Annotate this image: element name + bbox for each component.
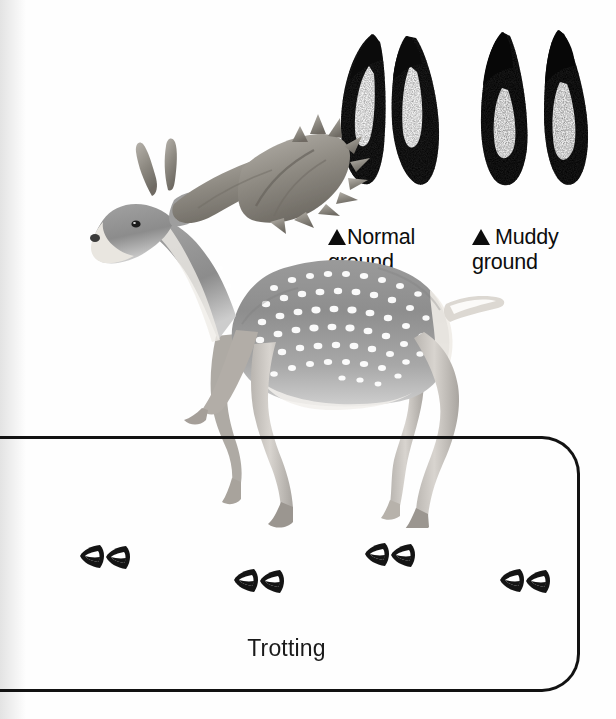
trotting-panel: Trotting [0,436,580,692]
deer-eye [131,220,140,227]
deer-antler-palm [238,134,350,223]
trotting-panel-label: Trotting [0,635,577,662]
muddy-print-right-cleave [544,30,588,185]
figure-page: Normalground [0,0,616,719]
trotting-caption: Trotting [247,635,326,661]
deer-nose [90,234,100,242]
